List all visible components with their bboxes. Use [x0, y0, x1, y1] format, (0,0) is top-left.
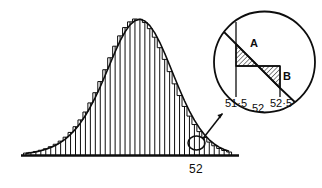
histogram-bars — [26, 19, 229, 155]
statistics-figure: 52 — [0, 0, 322, 188]
detail-callout-marker-circle — [188, 136, 205, 150]
figure-canvas: 52 — [0, 0, 322, 188]
detail-tick-label-52: 52 — [252, 102, 264, 114]
magnified-detail-circle: A B 51·5 52 52·5 — [214, 12, 315, 115]
region-a-label: A — [250, 37, 258, 49]
main-distribution-plot: 52 — [21, 19, 239, 176]
region-b-hatched-triangle — [258, 66, 280, 88]
callout-leader-arrowhead — [217, 114, 222, 119]
normal-curve-path — [26, 19, 229, 153]
x-axis-tick-label-52: 52 — [189, 162, 203, 176]
region-b-label: B — [283, 70, 291, 82]
histogram-step-outline — [23, 19, 231, 155]
magnifier-contents — [214, 22, 299, 106]
detail-tick-label-51-5: 51·5 — [225, 97, 247, 109]
detail-tick-label-52-5: 52·5 — [270, 97, 292, 109]
